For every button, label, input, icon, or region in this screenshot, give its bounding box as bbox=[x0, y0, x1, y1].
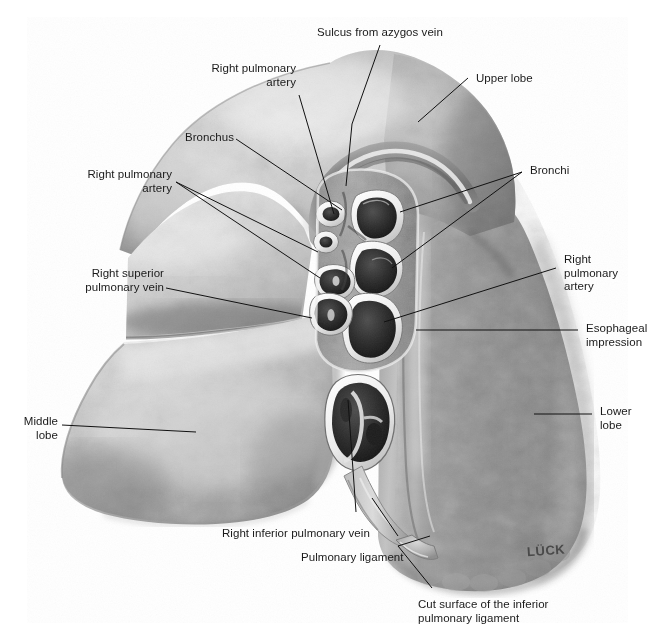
label-right-pulmonary-artery-top: Right pulmonary artery bbox=[160, 62, 296, 89]
label-right-inferior-pulmonary-vein: Right inferior pulmonary vein bbox=[222, 527, 370, 541]
paper-grain bbox=[55, 45, 600, 595]
label-pulmonary-ligament: Pulmonary ligament bbox=[301, 551, 404, 565]
label-right-pulmonary-artery-left: Right pulmonary artery bbox=[40, 168, 172, 195]
lung-body bbox=[30, 40, 620, 600]
label-bronchus: Bronchus bbox=[116, 131, 234, 145]
illustration-canvas: Sulcus from azygos vein Upper lobe Right… bbox=[0, 0, 664, 643]
label-bronchi: Bronchi bbox=[530, 164, 569, 178]
label-lower-lobe: Lower lobe bbox=[600, 405, 662, 432]
label-right-superior-pulmonary-vein: Right superior pulmonary vein bbox=[40, 267, 164, 294]
label-sulcus-azygos-vein: Sulcus from azygos vein bbox=[270, 26, 490, 40]
label-right-pulmonary-artery-right: Right pulmonary artery bbox=[564, 253, 660, 294]
label-middle-lobe: Middle lobe bbox=[2, 415, 58, 442]
label-esophageal-impression: Esophageal impression bbox=[586, 322, 664, 349]
label-upper-lobe: Upper lobe bbox=[476, 72, 533, 86]
artist-signature: LÜCK bbox=[527, 542, 566, 560]
label-cut-surface-inferior-pulmonary-ligament: Cut surface of the inferior pulmonary li… bbox=[418, 598, 618, 625]
